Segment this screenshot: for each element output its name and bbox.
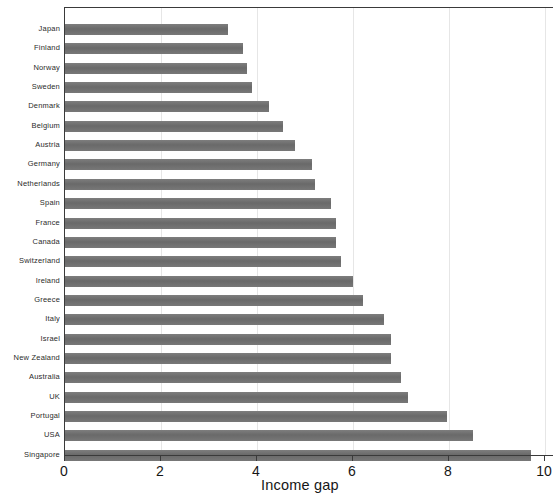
y-axis-label: Norway <box>0 63 60 72</box>
bar <box>65 276 353 287</box>
x-axis-tick <box>448 455 449 461</box>
y-axis-label: Germany <box>0 159 60 168</box>
x-axis-tick <box>352 455 353 461</box>
bar <box>65 159 312 170</box>
bar-fill <box>65 295 363 306</box>
x-axis-title: Income gap <box>0 477 558 494</box>
y-axis-category-labels: JapanFinlandNorwaySwedenDenmarkBelgiumAu… <box>0 7 60 455</box>
y-axis-label: Israel <box>0 334 60 343</box>
x-axis-title-text: Income gap <box>261 477 339 494</box>
y-axis-label: Switzerland <box>0 256 60 265</box>
bar <box>65 314 384 325</box>
bar <box>65 140 295 151</box>
x-axis-tick-label: 10 <box>536 463 552 480</box>
bar-fill <box>65 159 312 170</box>
bar <box>65 411 447 422</box>
x-axis-tick <box>160 455 161 461</box>
bar <box>65 198 331 209</box>
x-axis-line <box>64 455 553 456</box>
bar <box>65 121 283 132</box>
x-axis-tick-label: 6 <box>348 463 356 480</box>
bar-fill <box>65 101 269 112</box>
y-axis-label: Japan <box>0 24 60 33</box>
bar <box>65 256 341 267</box>
bar <box>65 353 391 364</box>
bar <box>65 372 401 383</box>
bar-fill <box>65 276 353 287</box>
bar-fill <box>65 430 473 441</box>
x-axis-tick <box>64 455 65 461</box>
y-axis-label: Ireland <box>0 276 60 285</box>
bar-fill <box>65 334 391 345</box>
x-axis-tick-label: 0 <box>60 463 68 480</box>
bar <box>65 82 252 93</box>
x-axis-tick <box>544 455 545 461</box>
y-axis-label: Denmark <box>0 101 60 110</box>
bar-fill <box>65 198 331 209</box>
bar-fill <box>65 256 341 267</box>
bar <box>65 179 315 190</box>
bar <box>65 237 336 248</box>
income-gap-bar-chart: JapanFinlandNorwaySwedenDenmarkBelgiumAu… <box>0 0 558 496</box>
bar-fill <box>65 179 315 190</box>
x-axis-tick-label: 2 <box>156 463 164 480</box>
bar-fill <box>65 24 228 35</box>
y-axis-label: Spain <box>0 198 60 207</box>
y-axis-label: Belgium <box>0 121 60 130</box>
bar <box>65 218 336 229</box>
bar <box>65 43 243 54</box>
y-axis-label: UK <box>0 392 60 401</box>
bar-fill <box>65 353 391 364</box>
x-axis-tick-label: 8 <box>444 463 452 480</box>
bar <box>65 101 269 112</box>
y-axis-label: France <box>0 218 60 227</box>
x-axis-tick <box>256 455 257 461</box>
bar <box>65 392 408 403</box>
plot-area <box>64 7 553 455</box>
y-axis-label: Singapore <box>0 450 60 459</box>
bar-fill <box>65 140 295 151</box>
y-axis-label: Netherlands <box>0 179 60 188</box>
y-axis-label: New Zealand <box>0 353 60 362</box>
bar-fill <box>65 392 408 403</box>
bar <box>65 24 228 35</box>
bar-fill <box>65 314 384 325</box>
bar-fill <box>65 411 447 422</box>
y-axis-label: Portugal <box>0 411 60 420</box>
bar-fill <box>65 237 336 248</box>
y-axis-label: Canada <box>0 237 60 246</box>
x-axis-tick-label: 4 <box>252 463 260 480</box>
bars-layer <box>65 8 553 455</box>
bar <box>65 63 247 74</box>
bar-fill <box>65 121 283 132</box>
y-axis-label: Austria <box>0 140 60 149</box>
y-axis-label: Greece <box>0 295 60 304</box>
bar-fill <box>65 218 336 229</box>
bar-fill <box>65 82 252 93</box>
y-axis-label: Italy <box>0 314 60 323</box>
y-axis-label: Australia <box>0 372 60 381</box>
bar-fill <box>65 63 247 74</box>
y-axis-label: USA <box>0 430 60 439</box>
bar <box>65 334 391 345</box>
bar-fill <box>65 43 243 54</box>
bar <box>65 430 473 441</box>
y-axis-label: Finland <box>0 43 60 52</box>
bar-fill <box>65 372 401 383</box>
bar <box>65 295 363 306</box>
y-axis-label: Sweden <box>0 82 60 91</box>
